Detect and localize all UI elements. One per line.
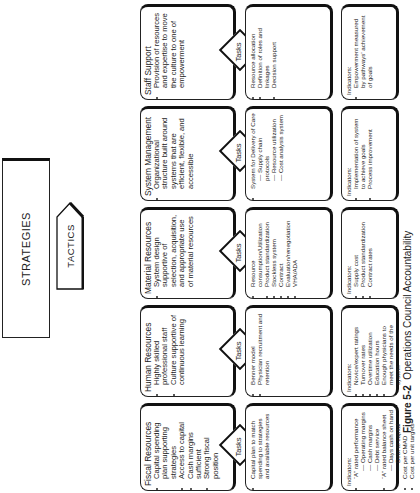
diagram-canvas: STRATEGIES TACTICS Fiscal Resources Capi…	[0, 0, 420, 493]
indicators-box-human: Indicators: Novice/expert ratings Turnov…	[341, 305, 399, 397]
strategies-header: STRATEGIES	[2, 158, 50, 338]
tasks-box-material: Resource consumption/Utilization Product…	[245, 207, 333, 299]
indicators-box-staff-support: Indicators: Empowerment measured by path…	[341, 4, 399, 100]
tactics-arrow: TACTICS	[56, 201, 84, 291]
tasks-box-human: Benner model Physician recruitment and r…	[245, 305, 333, 397]
indicators-box-fiscal: Indicators: “A” rated performance — Oper…	[341, 403, 399, 491]
indicators-box-system-management: Indicators: Implementation of system to …	[341, 106, 399, 201]
tasks-box-fiscal: Capital plan to match spending to strate…	[245, 403, 333, 491]
figure-caption: Figure 5-2 Operations Council Accountabi…	[402, 13, 418, 433]
tasks-label: Tasks	[234, 37, 243, 67]
tasks-box-system-management: System for Delivery of Care — Supply cha…	[245, 106, 333, 201]
tasks-label: Tasks	[234, 432, 243, 462]
tasks-label: Tasks	[234, 238, 243, 268]
tasks-box-staff-support: Resource allocation Definition of roles …	[245, 4, 333, 100]
indicators-box-material: Indicators: Supply cost Product standard…	[341, 207, 399, 299]
tasks-label: Tasks	[234, 138, 243, 168]
tasks-label: Tasks	[234, 336, 243, 366]
